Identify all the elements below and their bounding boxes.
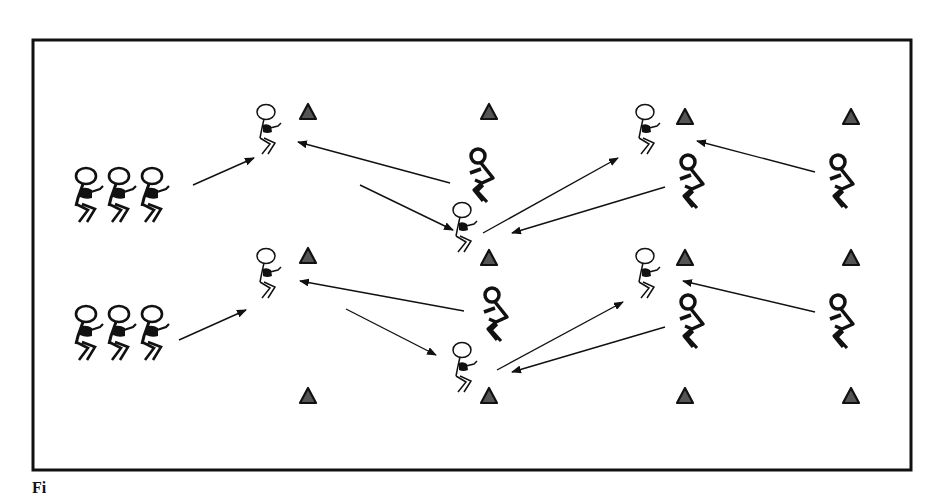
pass-arrow xyxy=(697,141,815,172)
receiver-top-3 xyxy=(636,105,660,155)
pass-arrow xyxy=(193,158,254,185)
receiver-bottom-2 xyxy=(453,343,477,393)
cone-icon xyxy=(843,250,859,265)
waiting-player xyxy=(142,168,169,222)
defender-top-1 xyxy=(470,149,493,202)
waiting-player xyxy=(76,168,103,222)
waiting-player xyxy=(76,306,103,360)
pass-arrow xyxy=(497,302,623,370)
waiting-line-top xyxy=(76,168,169,222)
cone-icon xyxy=(481,388,497,403)
receiver-top-1 xyxy=(257,105,281,155)
defenders xyxy=(470,149,853,348)
pass-arrow xyxy=(360,185,453,230)
waiting-player xyxy=(109,168,136,222)
pass-arrow xyxy=(683,281,815,312)
cone-icon xyxy=(300,104,316,119)
defender-bottom-2 xyxy=(680,295,703,348)
pass-arrow xyxy=(179,310,246,340)
waiting-player xyxy=(142,306,169,360)
cone-icon xyxy=(677,109,693,124)
cones xyxy=(300,104,859,403)
waiting-lines xyxy=(76,168,169,360)
pass-arrow xyxy=(346,309,436,355)
cone-icon xyxy=(481,250,497,265)
waiting-line-bottom xyxy=(76,306,169,360)
receiver-top-2 xyxy=(453,203,477,253)
receiver-bottom-1 xyxy=(257,249,281,299)
cone-icon xyxy=(300,388,316,403)
cone-icon xyxy=(677,388,693,403)
defender-bottom-3 xyxy=(830,295,853,348)
cone-icon xyxy=(300,248,316,263)
pass-arrow xyxy=(512,187,665,233)
receiver-bottom-3 xyxy=(636,249,660,299)
cone-icon xyxy=(843,388,859,403)
pass-arrow xyxy=(298,142,450,183)
cone-icon xyxy=(843,109,859,124)
field-boundary xyxy=(33,40,911,470)
cone-icon xyxy=(481,104,497,119)
defender-top-3 xyxy=(830,155,853,208)
waiting-player xyxy=(109,306,136,360)
defender-bottom-1 xyxy=(484,288,507,341)
cone-icon xyxy=(677,250,693,265)
defender-top-2 xyxy=(680,155,703,208)
pass-arrow xyxy=(300,281,464,311)
figure-caption: Fi xyxy=(32,480,46,496)
